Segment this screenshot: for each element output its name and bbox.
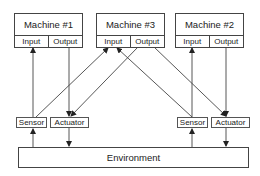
input-port: Input bbox=[97, 36, 131, 47]
machine-title: Machine #2 bbox=[176, 14, 243, 36]
environment-box: Environment bbox=[18, 147, 249, 168]
output-port: Output bbox=[49, 36, 83, 47]
machine-title: Machine #3 bbox=[97, 14, 164, 36]
actuator-left: Actuator bbox=[50, 117, 89, 128]
machine-1: Machine #1 Input Output bbox=[14, 13, 83, 48]
output-port: Output bbox=[131, 36, 165, 47]
machine-2: Machine #2 Input Output bbox=[175, 13, 244, 48]
input-port: Input bbox=[176, 36, 210, 47]
input-port: Input bbox=[15, 36, 49, 47]
output-port: Output bbox=[210, 36, 244, 47]
sensor-left: Sensor bbox=[16, 117, 47, 128]
machine-3: Machine #3 Input Output bbox=[96, 13, 165, 48]
actuator-right: Actuator bbox=[211, 117, 250, 128]
machine-title: Machine #1 bbox=[15, 14, 82, 36]
sensor-right: Sensor bbox=[177, 117, 208, 128]
